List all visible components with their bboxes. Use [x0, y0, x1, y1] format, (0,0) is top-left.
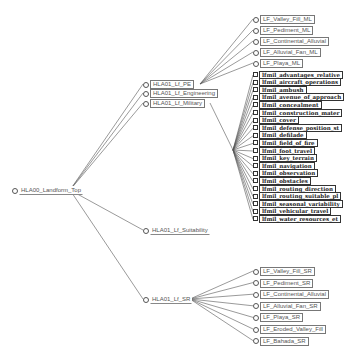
checkbox-square-icon[interactable] — [253, 186, 258, 191]
node-label: LF_Continental_Alluvial — [260, 37, 329, 46]
edge — [70, 103, 143, 190]
edge — [233, 98, 253, 150]
leaf-military-19[interactable]: lfmil_water_resources_et — [253, 215, 341, 222]
node-circle-icon[interactable] — [143, 297, 149, 303]
checkbox-square-icon[interactable] — [253, 209, 258, 214]
checkbox-square-icon[interactable] — [253, 87, 258, 92]
leaf-ml-0[interactable]: LF_Valley_Fill_ML — [253, 15, 315, 24]
leaf-military-11[interactable]: lfmil_key_terrain — [253, 155, 317, 162]
node-label: LF_Eroded_Valley_Fill — [260, 325, 326, 334]
node-circle-icon[interactable] — [253, 338, 259, 344]
checkbox-square-icon[interactable] — [253, 125, 258, 130]
leaf-ml-4[interactable]: LF_Playa_ML — [253, 59, 303, 68]
checkbox-square-icon[interactable] — [253, 194, 258, 199]
checkbox-square-icon[interactable] — [253, 148, 258, 153]
level1-node-mil[interactable]: HLA01_Lf_Military — [143, 99, 205, 108]
edge — [70, 84, 143, 190]
node-circle-icon[interactable] — [253, 292, 259, 298]
node-circle-icon[interactable] — [143, 228, 149, 234]
node-circle-icon[interactable] — [253, 17, 259, 23]
leaf-sr-1[interactable]: LF_Pediment_SR — [253, 279, 313, 288]
node-circle-icon[interactable] — [253, 61, 259, 67]
leaf-military-12[interactable]: lfmil_navigation — [253, 162, 315, 169]
node-label: HLA01_Lf_Engineering — [150, 89, 218, 98]
checkbox-square-icon[interactable] — [253, 72, 258, 77]
checkbox-square-icon[interactable] — [253, 95, 258, 100]
level1-node-pe[interactable]: HLA01_Lf_PE — [143, 80, 194, 89]
node-circle-icon[interactable] — [253, 50, 259, 56]
edge — [233, 90, 253, 150]
leaf-sr-5[interactable]: LF_Eroded_Valley_Fill — [253, 325, 326, 334]
checkbox-square-icon[interactable] — [253, 178, 258, 183]
node-circle-icon[interactable] — [253, 28, 259, 34]
checkbox-square-icon[interactable] — [253, 118, 258, 123]
checkbox-square-icon[interactable] — [253, 171, 258, 176]
leaf-military-17[interactable]: lfmil_seasonal_variability — [253, 200, 343, 207]
leaf-military-10[interactable]: lfmil_foot_travel — [253, 147, 315, 154]
leaf-military-4[interactable]: lfmil_concealment — [253, 101, 322, 108]
leaf-military-18[interactable]: lfmil_vehicular_travel — [253, 208, 331, 215]
node-circle-icon[interactable] — [143, 91, 149, 97]
node-circle-icon[interactable] — [143, 101, 149, 107]
level1-node-suit[interactable]: HLA01_Lf_Suitability — [143, 226, 210, 235]
node-circle-icon[interactable] — [253, 269, 259, 275]
node-circle-icon[interactable] — [253, 39, 259, 45]
leaf-sr-3[interactable]: LF_Alluvial_Fan_SR — [253, 302, 321, 311]
leaf-sr-4[interactable]: LF_Playa_SR — [253, 313, 303, 322]
leaf-military-8[interactable]: lfmil_defilade — [253, 132, 307, 139]
node-label: LF_Playa_SR — [260, 313, 303, 322]
node-label: HLA01_Lf_Military — [150, 99, 205, 108]
edge — [233, 150, 253, 212]
leaf-ml-3[interactable]: LF_Alluvial_Fan_ML — [253, 48, 321, 57]
edge — [233, 150, 253, 151]
root-node[interactable]: HLA00_Landform_Top — [12, 186, 83, 195]
node-circle-icon[interactable] — [253, 315, 259, 321]
node-circle-icon[interactable] — [12, 188, 18, 194]
leaf-ml-2[interactable]: LF_Continental_Alluvial — [253, 37, 329, 46]
checkbox-square-icon[interactable] — [253, 110, 258, 115]
leaf-sr-2[interactable]: LF_Continental_Alluvial — [253, 290, 329, 299]
node-label: LF_Pediment_SR — [260, 279, 313, 288]
node-label: LF_Pediment_ML — [260, 26, 313, 35]
leaf-military-13[interactable]: lfmil_observation — [253, 170, 318, 177]
leaf-ml-1[interactable]: LF_Pediment_ML — [253, 26, 313, 35]
leaf-military-0[interactable]: lfmil_advantages_relative — [253, 71, 343, 78]
leaf-military-2[interactable]: lfmil_ambush — [253, 86, 307, 93]
checkbox-square-icon[interactable] — [253, 80, 258, 85]
edge — [190, 299, 253, 329]
node-label: HLA01_Lf_Suitability — [150, 226, 210, 235]
checkbox-square-icon[interactable] — [253, 102, 258, 107]
leaf-sr-0[interactable]: LF_Valley_Fill_SR — [253, 267, 315, 276]
node-circle-icon[interactable] — [143, 82, 149, 88]
level1-node-sr[interactable]: HLA01_Lf_SR — [143, 295, 192, 304]
leaf-military-14[interactable]: lfmil_obstacles — [253, 177, 311, 184]
node-circle-icon[interactable] — [253, 327, 259, 333]
edge — [190, 299, 253, 306]
leaf-military-16[interactable]: lfmil_routing_suitable_pl — [253, 193, 341, 200]
leaf-sr-6[interactable]: LF_Bahada_SR — [253, 337, 309, 346]
leaf-military-1[interactable]: lfmil_aircraft_operations — [253, 79, 341, 86]
leaf-military-15[interactable]: lfmil_routing_direction — [253, 185, 336, 192]
node-label: lfmil_water_resources_et — [259, 215, 341, 223]
node-label: HLA01_Lf_SR — [150, 295, 192, 304]
checkbox-square-icon[interactable] — [253, 216, 258, 221]
node-label: LF_Alluvial_Fan_SR — [260, 302, 321, 311]
checkbox-square-icon[interactable] — [253, 201, 258, 206]
level1-node-eng[interactable]: HLA01_Lf_Engineering — [143, 89, 218, 98]
edge — [233, 150, 253, 189]
leaf-military-5[interactable]: lfmil_construction_mater — [253, 109, 342, 116]
leaf-military-3[interactable]: lfmil_avenue_of_approach — [253, 94, 344, 101]
checkbox-square-icon[interactable] — [253, 163, 258, 168]
leaf-military-7[interactable]: lfmil_defense_position_st — [253, 124, 342, 131]
leaf-military-9[interactable]: lfmil_field_of_fire — [253, 139, 318, 146]
checkbox-square-icon[interactable] — [253, 140, 258, 145]
checkbox-square-icon[interactable] — [253, 156, 258, 161]
checkbox-square-icon[interactable] — [253, 133, 258, 138]
node-circle-icon[interactable] — [253, 303, 259, 309]
node-circle-icon[interactable] — [253, 280, 259, 286]
edge — [233, 121, 253, 150]
node-label: LF_Valley_Fill_ML — [260, 15, 315, 24]
leaf-military-6[interactable]: lfmil_cover — [253, 117, 299, 124]
edge — [200, 41, 253, 84]
edge — [70, 190, 143, 230]
